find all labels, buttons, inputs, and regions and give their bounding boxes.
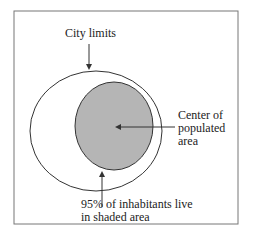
city-limits-label: City limits: [65, 27, 116, 40]
inhabitants-label-line2: in shaded area: [81, 211, 150, 224]
populated-area-ellipse: [75, 82, 153, 170]
center-label-line3: area: [178, 135, 198, 148]
